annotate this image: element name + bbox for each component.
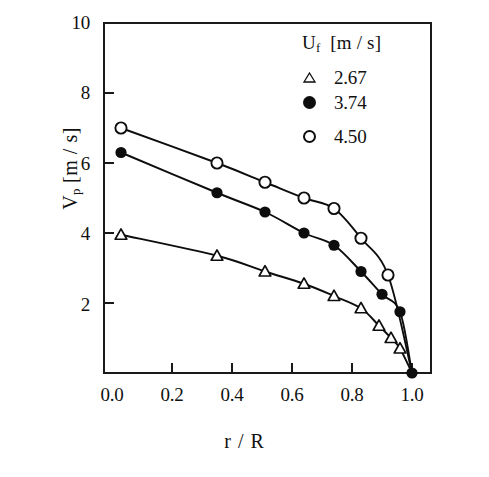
y-axis-title-symbol: V	[59, 195, 81, 210]
legend-item-2-67: 2.67	[292, 66, 432, 89]
chart-figure: 10 8 6 4 2 0.0 0.2 0.4 0.6 0.8 1.0 Vp [m…	[0, 0, 489, 477]
open-circle-icon	[292, 130, 326, 143]
xtick-label-0: 0.0	[84, 385, 140, 404]
xtick-label-2: 0.4	[204, 385, 260, 404]
legend-item-4-50: 4.50	[292, 125, 432, 148]
xtick-label-4: 0.8	[324, 385, 380, 404]
ytick-label-8: 8	[56, 83, 90, 102]
open-triangle-icon	[292, 72, 326, 83]
legend-item-3-74: 3.74	[292, 91, 432, 114]
y-axis-title: Vp [m / s]	[59, 104, 84, 234]
legend-label-4-50: 4.50	[334, 126, 366, 148]
x-axis-title: r / R	[0, 430, 489, 453]
xtick-label-1: 0.2	[144, 385, 200, 404]
legend: Uf [m / s] 2.67 3.74 4.50	[292, 32, 432, 150]
legend-title-units: [m / s]	[330, 32, 381, 53]
legend-title-symbol: U	[302, 32, 316, 53]
ytick-label-2: 2	[56, 295, 90, 314]
filled-circle-icon	[292, 96, 326, 109]
legend-label-3-74: 3.74	[334, 92, 366, 114]
xtick-label-5: 1.0	[384, 385, 440, 404]
y-axis-title-subscript: p	[68, 188, 83, 195]
legend-title-subscript: f	[316, 40, 320, 55]
legend-title: Uf [m / s]	[302, 32, 432, 56]
xtick-label-3: 0.6	[264, 385, 320, 404]
legend-label-2-67: 2.67	[334, 67, 366, 89]
y-axis-title-units: [m / s]	[59, 127, 81, 183]
ytick-label-10: 10	[56, 13, 90, 32]
